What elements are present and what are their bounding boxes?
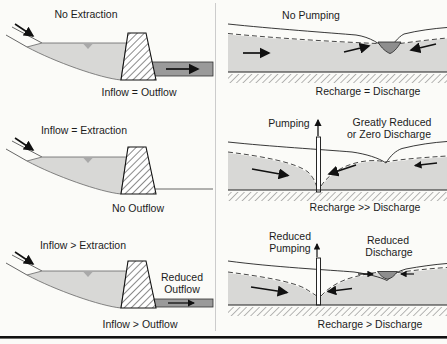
panel-dam-no-extraction: No Extraction Inflow = Outflow <box>6 8 213 98</box>
panel-title: Pumping <box>268 117 310 129</box>
inflow-channel-bank-lower <box>6 263 27 275</box>
dam-hatching <box>121 147 156 194</box>
panel-caption: No Outflow <box>112 202 164 214</box>
well-casing <box>317 137 321 192</box>
page-bottom-rule <box>0 336 447 339</box>
panel-dam-inflow-greater-extraction: Inflow > Extraction Reduced Outflow Infl… <box>6 239 213 330</box>
bedrock-hatching <box>228 192 447 201</box>
panel-aquifer-pumping: Pumping Greatly Reduced or Zero Discharg… <box>228 116 447 213</box>
figure-groundwater-analogy: No Extraction Inflow = Outflow Inflow = … <box>0 0 447 344</box>
panel-caption: Recharge = Discharge <box>316 85 421 97</box>
panel-title-line1: Reduced <box>269 230 311 242</box>
panel-aquifer-no-pumping: No Pumping Recharge = Discharge <box>228 9 447 97</box>
dam-hatching <box>121 33 156 80</box>
discharge-label-line2: Discharge <box>365 246 412 258</box>
reduced-outflow-label-line1: Reduced <box>161 271 203 283</box>
reservoir-water <box>27 43 127 80</box>
well-casing <box>317 258 321 305</box>
panel-caption: Recharge >> Discharge <box>310 201 421 213</box>
panel-aquifer-reduced-pumping: Reduced Pumping Reduced Discharge Rechar… <box>228 230 447 330</box>
dam-hatching <box>121 261 156 308</box>
reservoir-water <box>27 271 127 308</box>
diagram-canvas: No Extraction Inflow = Outflow Inflow = … <box>0 0 447 344</box>
aquifer-saturated-zone <box>228 269 447 306</box>
discharge-label-line1: Reduced <box>367 234 409 246</box>
panel-title-line2: Pumping <box>269 242 311 254</box>
panel-title: No Pumping <box>282 9 340 21</box>
inflow-channel-bank-lower <box>6 35 27 47</box>
discharge-label-line2: or Zero Discharge <box>347 128 431 140</box>
discharge-label-line1: Greatly Reduced <box>353 116 432 128</box>
reservoir-water <box>27 157 127 194</box>
panel-title: No Extraction <box>54 8 117 20</box>
panel-title: Inflow = Extraction <box>41 124 127 136</box>
panel-caption: Inflow = Outflow <box>102 86 177 98</box>
bedrock-hatching <box>228 307 447 316</box>
bedrock-hatching <box>228 74 447 83</box>
panel-title: Inflow > Extraction <box>40 239 126 251</box>
panel-caption: Inflow > Outflow <box>103 318 178 330</box>
panel-caption: Recharge > Discharge <box>318 318 423 330</box>
reduced-outflow-label-line2: Outflow <box>164 283 200 295</box>
panel-dam-inflow-equals-extraction: Inflow = Extraction No Outflow <box>6 124 213 214</box>
inflow-channel-bank-lower <box>6 149 27 161</box>
